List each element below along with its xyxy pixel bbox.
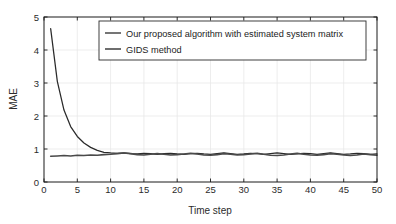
x-tick-label: 45	[338, 184, 349, 195]
y-tick-label: 3	[34, 78, 39, 89]
x-tick-label: 5	[75, 184, 80, 195]
y-tick-label: 4	[34, 45, 39, 56]
x-tick-labels: 05101520253035404550	[41, 184, 382, 195]
y-axis-title: MAE	[8, 88, 19, 110]
x-tick-label: 25	[205, 184, 216, 195]
y-tick-labels: 012345	[34, 12, 39, 188]
x-tick-label: 15	[139, 184, 150, 195]
legend-label-proposed: Our proposed algorithm with estimated sy…	[126, 29, 343, 39]
x-tick-label: 0	[41, 184, 46, 195]
x-tick-label: 30	[239, 184, 250, 195]
chart-figure: 05101520253035404550 012345 Time step MA…	[0, 0, 396, 224]
chart-legend: Our proposed algorithm with estimated sy…	[99, 21, 366, 60]
y-tick-label: 2	[34, 111, 39, 122]
y-tick-label: 0	[34, 177, 39, 188]
x-tick-label: 50	[372, 184, 383, 195]
x-axis-title: Time step	[188, 205, 232, 216]
x-tick-label: 10	[105, 184, 116, 195]
x-tick-label: 35	[272, 184, 283, 195]
legend-label-gids: GIDS method	[126, 45, 182, 55]
y-tick-label: 1	[34, 144, 39, 155]
x-tick-label: 20	[172, 184, 183, 195]
y-tick-label: 5	[34, 12, 39, 23]
line-chart: 05101520253035404550 012345 Time step MA…	[0, 0, 396, 224]
x-tick-label: 40	[305, 184, 316, 195]
